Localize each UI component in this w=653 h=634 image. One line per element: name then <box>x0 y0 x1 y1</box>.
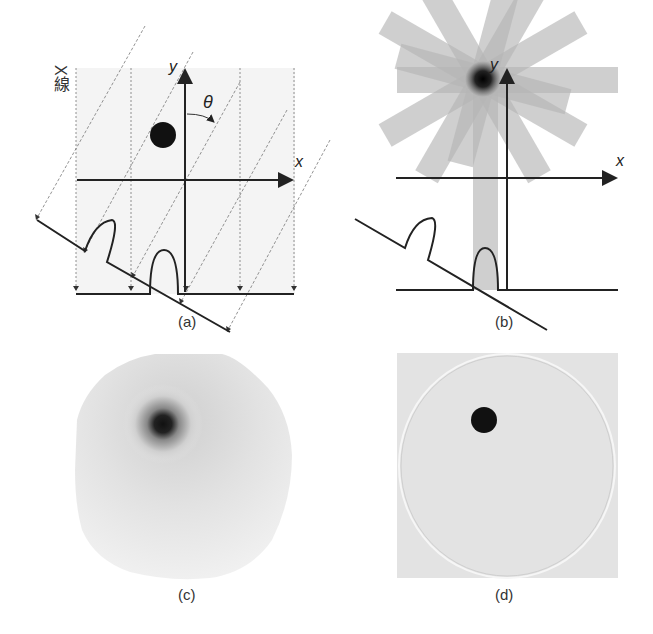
caption-c: (c) <box>178 586 196 603</box>
caption-a: (a) <box>178 313 196 330</box>
caption-d: (d) <box>495 586 513 603</box>
panel-a <box>35 26 330 332</box>
xray-label: X線 <box>48 65 72 92</box>
reconstruction-body <box>75 354 292 579</box>
projection-profile-tilted <box>355 218 547 330</box>
backprojection-beams <box>379 0 618 290</box>
panel-b <box>355 0 618 330</box>
panel-c <box>75 354 292 579</box>
theta-label: θ <box>203 92 213 113</box>
reconstructed-dot <box>471 407 497 433</box>
panel-b-y-label: y <box>490 56 498 74</box>
object-dot <box>150 122 176 148</box>
caption-b: (b) <box>495 313 513 330</box>
panel-d <box>397 353 618 578</box>
blurred-dot <box>123 384 203 464</box>
panel-a-x-label: x <box>295 153 303 171</box>
panel-b-x-label: x <box>616 152 624 170</box>
diagram-canvas <box>0 0 653 634</box>
panel-a-y-label: y <box>169 58 177 76</box>
